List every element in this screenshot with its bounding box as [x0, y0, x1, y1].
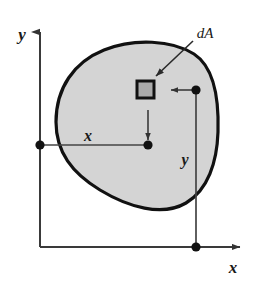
y-dimension-label: y — [179, 151, 189, 169]
x-axis-projection-marker — [191, 242, 200, 251]
element-center-marker — [191, 85, 200, 94]
x-dimension-label: x — [83, 127, 92, 144]
area-element-square — [137, 81, 154, 98]
area-element-diagram: y x x y dA — [0, 0, 260, 283]
area-element-label: dA — [197, 25, 215, 41]
plane-area-region — [56, 42, 218, 210]
y-axis-label: y — [16, 25, 26, 44]
x-axis-label: x — [228, 258, 238, 277]
y-axis-origin-marker — [35, 140, 44, 149]
centroid-marker — [143, 140, 152, 149]
figure-container: y x x y dA — [0, 0, 260, 283]
